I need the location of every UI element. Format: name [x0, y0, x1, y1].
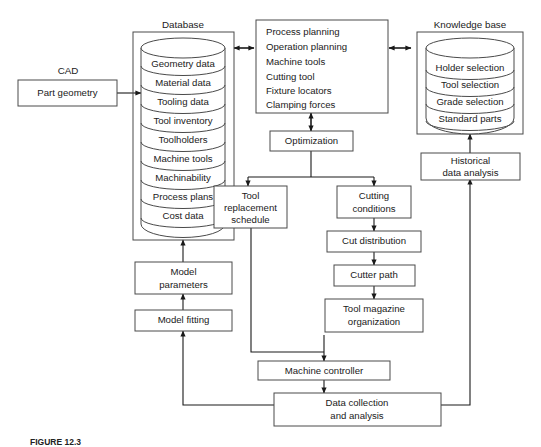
connector-toolreplacement-to-controller [251, 228, 324, 352]
trs-line: Tool [242, 190, 260, 201]
database-layer-label: Process plans [153, 191, 213, 202]
database-cylinder[interactable]: Geometry data Material data Tooling data… [141, 38, 225, 238]
planning-line: Fixture locators [266, 85, 332, 96]
database-layer-label: Material data [155, 77, 211, 88]
tool-replacement-schedule-group[interactable]: Tool replacement schedule [214, 186, 287, 228]
process-planning-group[interactable]: Process planning Operation planning Mach… [256, 20, 388, 113]
mp-line: Model [170, 266, 196, 277]
planning-line: Cutting tool [266, 71, 315, 82]
database-layer-label: Toolholders [158, 134, 207, 145]
cutting-conditions-group[interactable]: Cutting conditions [337, 186, 411, 218]
historical-data-analysis-group[interactable]: Historical data analysis [421, 153, 520, 180]
data-collection-group[interactable]: Data collection and analysis [274, 393, 441, 426]
database-layer-label: Tooling data [157, 96, 209, 107]
connector-optimization-split [248, 151, 374, 177]
database-layer-label: Machinability [155, 172, 211, 183]
knowledge-base-cylinder[interactable]: Holder selection Tool selection Grade se… [426, 38, 514, 134]
trs-line: schedule [231, 214, 269, 225]
cad-group: CAD Part geometry [18, 65, 117, 106]
planning-line: Clamping forces [266, 99, 336, 110]
tmo-line: Tool magazine [343, 303, 405, 314]
cad-box-label: Part geometry [37, 87, 97, 98]
figure-caption: FIGURE 12.3 [30, 437, 81, 447]
connector-datacollection-to-historical [441, 179, 470, 405]
planning-line: Machine tools [266, 56, 325, 67]
knowledge-base-group: Knowledge base Holder selection Tool sel… [417, 19, 523, 134]
cc-line: Cutting [359, 190, 389, 201]
database-layer-label: Machine tools [153, 153, 212, 164]
database-layer-label: Cost data [162, 210, 204, 221]
cc-line: conditions [352, 203, 395, 214]
hda-line: Historical [451, 155, 490, 166]
database-layer-label: Tool inventory [153, 115, 212, 126]
kb-layer-label: Tool selection [441, 79, 499, 90]
model-parameters-group[interactable]: Model parameters [135, 262, 232, 294]
machine-controller-label: Machine controller [285, 365, 364, 376]
planning-line: Operation planning [266, 41, 347, 52]
cut-distribution-label: Cut distribution [342, 235, 406, 246]
cutter-path-label: Cutter path [350, 269, 397, 280]
database-title: Database [162, 19, 204, 30]
dc-line: and analysis [330, 410, 384, 421]
kb-layer-label: Grade selection [436, 96, 503, 107]
optimization-label: Optimization [285, 135, 338, 146]
tool-magazine-organization-group[interactable]: Tool magazine organization [325, 299, 423, 332]
optimization-group[interactable]: Optimization [270, 131, 353, 151]
machine-controller-group[interactable]: Machine controller [258, 361, 390, 380]
tmo-line: organization [348, 316, 400, 327]
planning-line: Process planning [266, 26, 340, 37]
cutter-path-group[interactable]: Cutter path [334, 265, 415, 286]
trs-line: replacement [224, 202, 277, 213]
flowchart-diagram: CAD Part geometry Database Geometry data… [0, 0, 541, 447]
model-fitting-group[interactable]: Model fitting [135, 310, 232, 331]
cad-title: CAD [58, 65, 79, 76]
mp-line: parameters [159, 279, 208, 290]
database-layer-label: Geometry data [151, 58, 215, 69]
model-fitting-label: Model fitting [158, 314, 210, 325]
knowledge-base-cylinder-top [426, 38, 514, 58]
figure-caption-prefix: FIGURE 12.3 [30, 437, 81, 447]
hda-line: data analysis [443, 167, 499, 178]
dc-line: Data collection [326, 397, 389, 408]
kb-layer-label: Standard parts [439, 113, 502, 124]
kb-layer-label: Holder selection [436, 62, 505, 73]
cut-distribution-group[interactable]: Cut distribution [327, 231, 421, 252]
database-cylinder-top [141, 38, 225, 58]
knowledge-base-title: Knowledge base [434, 19, 507, 30]
